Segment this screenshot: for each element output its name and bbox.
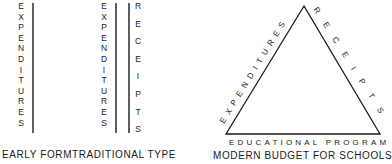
modern-budget-caption: MODERN BUDGET FOR SCHOOLS bbox=[213, 150, 392, 161]
panel-traditional-type: EXPENDITURES RECEIPTS TRADITIONAL TYPE bbox=[72, 1, 176, 160]
triangle-right-label: RECEIPTS bbox=[311, 6, 392, 126]
traditional-receipts-label: RECEIPTS bbox=[135, 1, 141, 134]
triangle-left-label: EXPENDITURES bbox=[218, 16, 290, 125]
traditional-expenditures-label: EXPENDITURES bbox=[101, 1, 107, 128]
early-expenditures-label: EXPENDITURES bbox=[18, 1, 24, 128]
panel-early-form: EXPENDITURES EARLY FORM bbox=[2, 1, 72, 160]
budget-evolution-diagram: EXPENDITURES EARLY FORM EXPENDITURES REC… bbox=[0, 0, 392, 164]
early-form-caption: EARLY FORM bbox=[2, 149, 72, 160]
traditional-type-caption: TRADITIONAL TYPE bbox=[72, 149, 176, 160]
triangle-base-label: EDUCATIONAL PROGRAM bbox=[229, 138, 389, 147]
panel-modern-budget: EXPENDITURES RECEIPTS EDUCATIONAL PROGRA… bbox=[213, 6, 392, 161]
